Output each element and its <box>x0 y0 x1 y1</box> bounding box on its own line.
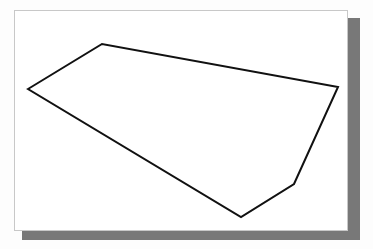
drawing-canvas[interactable] <box>14 10 348 231</box>
polygon-figure-svg <box>15 11 349 232</box>
screenshot-stage <box>0 0 373 249</box>
polygon-shape[interactable] <box>28 44 338 217</box>
